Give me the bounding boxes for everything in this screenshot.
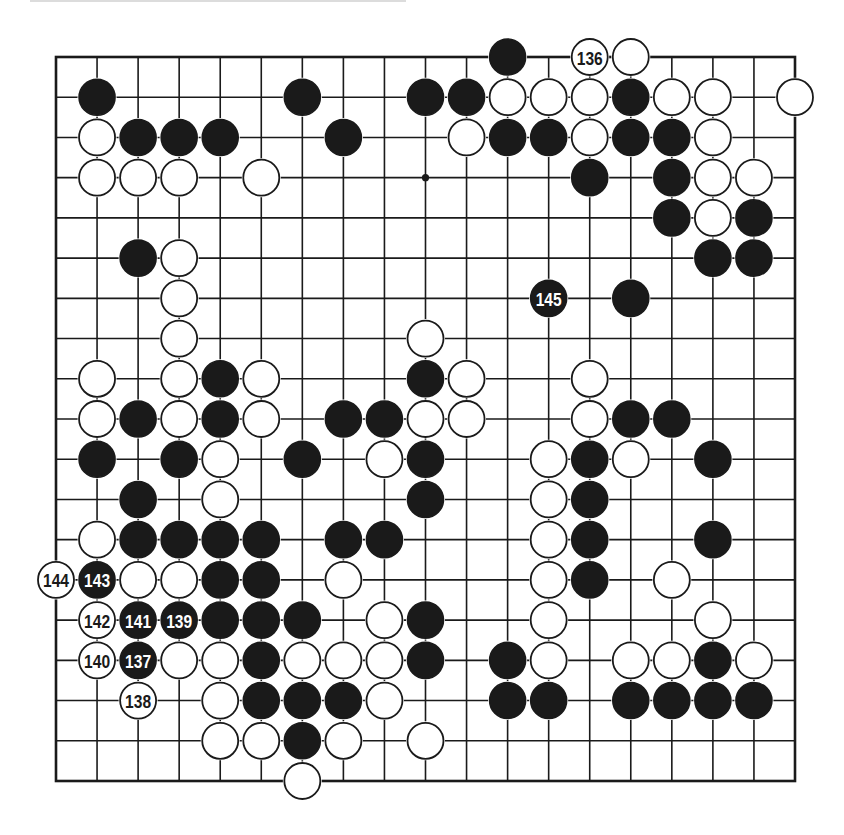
black-stone[interactable] <box>447 78 486 117</box>
black-stone[interactable] <box>283 440 322 479</box>
black-stone[interactable] <box>242 641 281 680</box>
white-stone-icon[interactable] <box>613 642 649 678</box>
black-stone-icon[interactable] <box>572 562 608 598</box>
black-stone-icon[interactable] <box>408 361 444 397</box>
white-stone-icon[interactable] <box>202 723 238 759</box>
black-stone-icon[interactable] <box>695 683 731 719</box>
white-stone-icon[interactable] <box>161 160 197 196</box>
white-stone[interactable] <box>529 78 568 117</box>
white-stone-icon[interactable] <box>777 79 813 115</box>
black-stone[interactable] <box>693 440 732 479</box>
black-stone-icon[interactable] <box>284 602 320 638</box>
white-stone[interactable] <box>160 319 199 358</box>
black-stone[interactable] <box>406 601 445 640</box>
white-stone[interactable] <box>78 520 117 559</box>
black-stone-icon[interactable] <box>736 683 772 719</box>
white-stone-icon[interactable] <box>695 119 731 155</box>
white-stone-icon[interactable] <box>161 401 197 437</box>
white-stone[interactable] <box>160 279 199 318</box>
black-stone[interactable] <box>160 440 199 479</box>
black-stone[interactable] <box>242 520 281 559</box>
white-stone-icon[interactable] <box>38 562 74 598</box>
black-stone-icon[interactable] <box>202 361 238 397</box>
white-stone[interactable] <box>447 359 486 398</box>
white-stone[interactable] <box>201 480 240 519</box>
black-stone[interactable] <box>283 721 322 760</box>
black-stone[interactable] <box>693 681 732 720</box>
white-stone-icon[interactable] <box>572 39 608 75</box>
white-stone-icon[interactable] <box>531 522 567 558</box>
white-stone-icon[interactable] <box>695 79 731 115</box>
black-stone-icon[interactable] <box>202 522 238 558</box>
white-stone-icon[interactable] <box>79 160 115 196</box>
black-stone-icon[interactable] <box>736 200 772 236</box>
white-stone[interactable] <box>529 440 568 479</box>
white-stone-icon[interactable] <box>531 562 567 598</box>
black-stone-icon[interactable] <box>654 160 690 196</box>
black-stone-move-141[interactable]: 141 <box>119 601 158 640</box>
white-stone[interactable] <box>78 158 117 197</box>
black-stone-icon[interactable] <box>654 119 690 155</box>
white-stone-icon[interactable] <box>243 361 279 397</box>
black-stone[interactable] <box>119 118 158 157</box>
black-stone-icon[interactable] <box>202 602 238 638</box>
white-stone-icon[interactable] <box>366 441 402 477</box>
black-stone-icon[interactable] <box>120 642 156 678</box>
white-stone-icon[interactable] <box>202 441 238 477</box>
black-stone-icon[interactable] <box>613 79 649 115</box>
white-stone[interactable] <box>365 641 404 680</box>
black-stone-icon[interactable] <box>695 240 731 276</box>
white-stone[interactable] <box>611 440 650 479</box>
black-stone-icon[interactable] <box>408 79 444 115</box>
white-stone-icon[interactable] <box>202 683 238 719</box>
black-stone[interactable] <box>283 78 322 117</box>
white-stone[interactable] <box>119 560 158 599</box>
black-stone[interactable] <box>201 359 240 398</box>
white-stone-icon[interactable] <box>161 562 197 598</box>
white-stone-icon[interactable] <box>366 642 402 678</box>
black-stone[interactable] <box>119 520 158 559</box>
white-stone-icon[interactable] <box>366 602 402 638</box>
black-stone-icon[interactable] <box>79 441 115 477</box>
black-stone-move-143[interactable]: 143 <box>78 560 117 599</box>
black-stone-icon[interactable] <box>120 481 156 517</box>
black-stone-icon[interactable] <box>243 562 279 598</box>
black-stone[interactable] <box>734 681 773 720</box>
white-stone-icon[interactable] <box>161 240 197 276</box>
white-stone[interactable] <box>570 118 609 157</box>
white-stone-icon[interactable] <box>654 642 690 678</box>
white-stone-icon[interactable] <box>572 79 608 115</box>
white-stone-icon[interactable] <box>79 119 115 155</box>
black-stone[interactable] <box>119 239 158 278</box>
black-stone-icon[interactable] <box>284 441 320 477</box>
black-stone-icon[interactable] <box>531 683 567 719</box>
white-stone[interactable] <box>160 560 199 599</box>
white-stone[interactable] <box>365 681 404 720</box>
white-stone-icon[interactable] <box>408 723 444 759</box>
black-stone[interactable] <box>734 198 773 237</box>
black-stone-icon[interactable] <box>325 683 361 719</box>
black-stone-icon[interactable] <box>490 642 526 678</box>
white-stone-icon[interactable] <box>120 562 156 598</box>
white-stone[interactable] <box>529 520 568 559</box>
black-stone-icon[interactable] <box>202 562 238 598</box>
white-stone[interactable] <box>447 400 486 439</box>
black-stone[interactable] <box>283 601 322 640</box>
white-stone-icon[interactable] <box>654 79 690 115</box>
black-stone[interactable] <box>529 118 568 157</box>
black-stone[interactable] <box>611 118 650 157</box>
white-stone[interactable] <box>693 198 732 237</box>
black-stone-icon[interactable] <box>490 119 526 155</box>
black-stone-icon[interactable] <box>695 441 731 477</box>
white-stone-icon[interactable] <box>613 39 649 75</box>
white-stone[interactable] <box>324 721 363 760</box>
black-stone[interactable] <box>406 480 445 519</box>
black-stone[interactable] <box>570 440 609 479</box>
black-stone-icon[interactable] <box>572 160 608 196</box>
black-stone[interactable] <box>160 118 199 157</box>
black-stone-icon[interactable] <box>408 481 444 517</box>
white-stone[interactable] <box>611 38 650 77</box>
white-stone-icon[interactable] <box>736 642 772 678</box>
black-stone[interactable] <box>201 560 240 599</box>
white-stone-icon[interactable] <box>408 401 444 437</box>
